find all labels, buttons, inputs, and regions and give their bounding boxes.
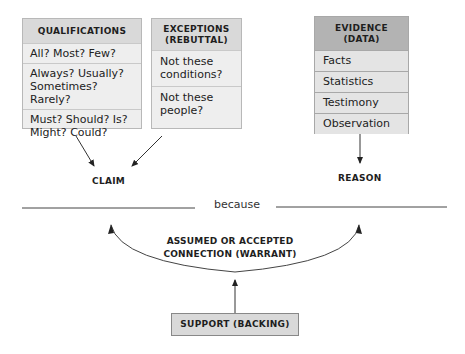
exceptions-item: Not these conditions?: [152, 50, 241, 86]
claim-label: CLAIM: [92, 176, 125, 186]
qualifications-title: QUALIFICATIONS: [23, 19, 141, 43]
evidence-box: EVIDENCE (DATA) Facts Statistics Testimo…: [314, 16, 409, 134]
evidence-item: Facts: [315, 50, 408, 71]
qualifications-item: Must? Should? Is? Might? Could?: [23, 109, 141, 142]
exceptions-title: EXCEPTIONS (REBUTTAL): [152, 19, 241, 50]
because-connector: because: [214, 198, 260, 211]
qualifications-item: All? Most? Few?: [23, 43, 141, 63]
warrant-label: ASSUMED OR ACCEPTED CONNECTION (WARRANT): [155, 235, 305, 261]
warrant-arrowhead-left: [108, 224, 114, 234]
reason-label: REASON: [338, 173, 382, 183]
support-box: SUPPORT (BACKING): [171, 313, 299, 336]
evidence-item: Statistics: [315, 71, 408, 92]
evidence-item: Observation: [315, 113, 408, 134]
warrant-arrowhead-right: [356, 224, 362, 234]
exceptions-item: Not these people?: [152, 86, 241, 122]
qualifications-item: Always? Usually? Sometimes? Rarely?: [23, 63, 141, 109]
evidence-title: EVIDENCE (DATA): [315, 17, 408, 50]
evidence-item: Testimony: [315, 92, 408, 113]
qualifications-box: QUALIFICATIONS All? Most? Few? Always? U…: [22, 18, 142, 129]
exceptions-box: EXCEPTIONS (REBUTTAL) Not these conditio…: [151, 18, 242, 129]
